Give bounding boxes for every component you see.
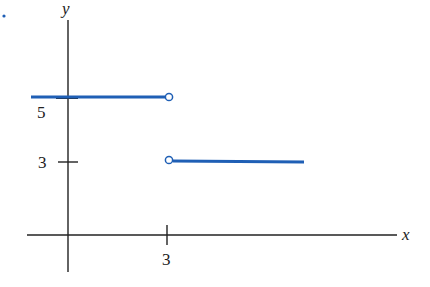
open-circle-lower (165, 156, 172, 163)
step-function-graph: y x 5 3 3 (0, 0, 430, 287)
segment-lower (173, 161, 304, 162)
x-axis-label: x (401, 225, 410, 244)
x-tick-label-3: 3 (162, 250, 171, 269)
y-tick-label-3: 3 (38, 153, 47, 172)
open-circle-upper (165, 93, 172, 100)
y-tick-label-5: 5 (37, 103, 46, 122)
bullet-dot (2, 14, 5, 17)
y-axis-label: y (60, 0, 70, 18)
